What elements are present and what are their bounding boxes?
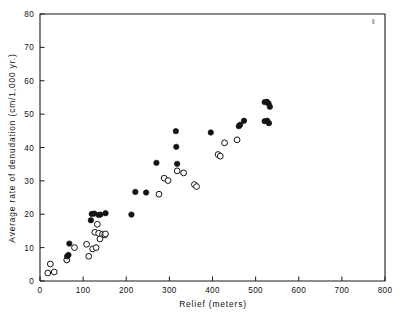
data-point xyxy=(103,231,109,237)
data-point xyxy=(154,160,159,165)
data-point xyxy=(174,144,179,149)
data-point xyxy=(234,137,240,143)
data-point xyxy=(241,118,246,123)
x-tick-label: 400 xyxy=(205,286,220,295)
data-point xyxy=(51,269,57,275)
x-tick-label: 300 xyxy=(162,286,177,295)
y-axis-label: Average rate of denudation (cm/1,000 yr.… xyxy=(7,53,17,242)
data-point xyxy=(66,252,71,257)
data-point xyxy=(208,130,213,135)
y-tick-label: 0 xyxy=(29,277,34,286)
data-point xyxy=(217,153,223,159)
data-point xyxy=(129,212,134,217)
figure-background xyxy=(0,0,410,318)
y-tick-label: 10 xyxy=(24,244,34,253)
data-point xyxy=(84,241,90,247)
data-point xyxy=(88,218,93,223)
corner-reference-mark xyxy=(372,19,375,24)
y-tick-label: 40 xyxy=(24,144,34,153)
data-point xyxy=(174,168,180,174)
x-tick-label: 200 xyxy=(119,286,134,295)
scatter-plot-figure: 0100200300400500600700800 01020304050607… xyxy=(0,0,410,318)
x-tick-label: 700 xyxy=(335,286,350,295)
y-tick-label: 60 xyxy=(24,77,34,86)
data-point xyxy=(194,184,200,190)
data-point xyxy=(86,253,92,259)
y-tick-label: 70 xyxy=(24,43,34,52)
y-tick-label: 30 xyxy=(24,177,34,186)
data-point xyxy=(67,241,72,246)
y-tick-label: 20 xyxy=(24,210,34,219)
y-tick-label: 50 xyxy=(24,110,34,119)
data-point xyxy=(47,261,53,267)
data-point xyxy=(98,212,103,217)
y-tick-label: 80 xyxy=(24,10,34,19)
data-point xyxy=(174,161,179,166)
x-tick-label: 600 xyxy=(291,286,306,295)
x-axis-label: Relief (meters) xyxy=(179,299,247,309)
data-point xyxy=(94,221,100,227)
x-tick-label: 100 xyxy=(76,286,91,295)
x-tick-label: 800 xyxy=(378,286,393,295)
data-point xyxy=(165,178,171,184)
data-point xyxy=(173,128,178,133)
x-tick-label: 0 xyxy=(38,286,43,295)
data-point xyxy=(143,190,148,195)
x-tick-label: 500 xyxy=(248,286,263,295)
data-point xyxy=(93,245,99,251)
data-point xyxy=(45,270,51,276)
data-point xyxy=(103,211,108,216)
data-point xyxy=(222,140,228,146)
denudation-vs-relief-scatter: 0100200300400500600700800 01020304050607… xyxy=(0,0,410,318)
data-point xyxy=(133,189,138,194)
data-point xyxy=(72,245,78,251)
data-point xyxy=(266,120,271,125)
data-point xyxy=(181,170,187,176)
data-point xyxy=(267,104,272,109)
data-point xyxy=(156,191,162,197)
